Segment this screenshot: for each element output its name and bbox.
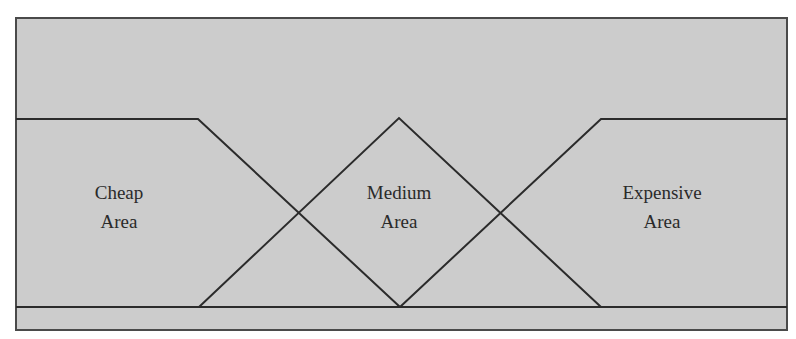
medium-area-label: Medium Area [367,178,431,236]
cheap-label-line1: Cheap [95,178,144,207]
membership-diagram [0,0,796,339]
medium-label-line1: Medium [367,178,431,207]
expensive-label-line1: Expensive [622,178,701,207]
cheap-label-line2: Area [95,207,144,236]
cheap-area-label: Cheap Area [95,178,144,236]
expensive-area-label: Expensive Area [622,178,701,236]
diagram-frame [16,18,787,330]
medium-label-line2: Area [367,207,431,236]
expensive-label-line2: Area [622,207,701,236]
